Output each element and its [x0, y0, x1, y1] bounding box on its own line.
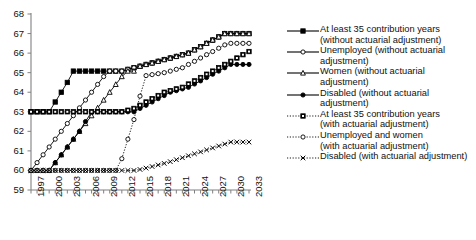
legend-marker-icon [286, 67, 320, 79]
y-tick-label: 63 [2, 106, 24, 117]
series-open-triangle [29, 31, 252, 173]
legend-item: Disabled (without actuarialadjustment) [286, 88, 476, 109]
x-tick-label: 2000 [53, 176, 64, 197]
x-tick-label: 2021 [180, 176, 191, 197]
legend-marker-icon [286, 131, 320, 143]
x-tick-label: 2006 [90, 176, 101, 197]
y-tick-label: 59 [2, 184, 24, 195]
legend-label-line1: Disabled (with actuarial adjustment) [320, 151, 467, 162]
y-tick-label: 64 [2, 86, 24, 97]
series-dotted-square [29, 49, 251, 114]
legend-label: Unemployed and women(with actuarial adju… [320, 130, 429, 151]
chart-legend: At least 35 contribution years(without a… [286, 24, 476, 164]
legend-label-line1: Unemployed and women [320, 130, 429, 141]
legend-label: Women (without actuarialadjustment) [320, 66, 425, 87]
legend-item: Disabled (with actuarial adjustment) [286, 151, 476, 164]
x-tick-label: 1997 [35, 176, 46, 197]
y-tick-label: 65 [2, 67, 24, 78]
x-tick-label: 2015 [144, 176, 155, 197]
x-tick-label: 2033 [253, 176, 264, 197]
legend-label-line1: At least 35 contribution years [320, 109, 440, 120]
legend-label: At least 35 contribution years(without a… [320, 24, 441, 45]
x-tick-label: 2003 [71, 176, 82, 197]
legend-item: Unemployed (without actuarialadjustment) [286, 45, 476, 66]
legend-label-line2: adjustment) [320, 77, 425, 88]
legend-label: Unemployed (without actuarialadjustment) [320, 45, 445, 66]
legend-item: At least 35 contribution years(without a… [286, 24, 476, 45]
legend-label-line1: Unemployed (without actuarial [320, 45, 445, 56]
legend-marker-icon [286, 152, 320, 164]
legend-label-line2: adjustment) [320, 98, 429, 109]
y-tick-label: 62 [2, 125, 24, 136]
y-tick-label: 66 [2, 47, 24, 58]
legend-label: At least 35 contribution years(with actu… [320, 109, 440, 130]
legend-label-line2: (with actuarial adjustment) [320, 141, 429, 152]
x-tick-label: 2012 [126, 176, 137, 197]
legend-marker-icon [286, 25, 320, 37]
legend-label-line2: (with actuarial adjustment) [320, 119, 440, 130]
legend-item: At least 35 contribution years(with actu… [286, 109, 476, 130]
legend-label: Disabled (with actuarial adjustment) [320, 151, 467, 162]
legend-marker-icon [286, 89, 320, 101]
legend-marker-icon [286, 110, 320, 122]
legend-label-line1: At least 35 contribution years [320, 24, 441, 35]
y-tick-label: 67 [2, 28, 24, 39]
series-filled-circle [29, 62, 251, 172]
x-tick-label: 2030 [235, 176, 246, 197]
x-tick-label: 2024 [199, 176, 210, 197]
y-tick-label: 61 [2, 145, 24, 156]
legend-item: Women (without actuarialadjustment) [286, 66, 476, 87]
legend-label-line1: Women (without actuarial [320, 66, 425, 77]
legend-label-line2: adjustment) [320, 56, 445, 67]
y-tick-label: 60 [2, 164, 24, 175]
legend-label-line2: (without actuarial adjustment) [320, 35, 441, 46]
legend-item: Unemployed and women(with actuarial adju… [286, 130, 476, 151]
series-open-circle [29, 31, 251, 172]
x-tick-label: 2027 [217, 176, 228, 197]
y-tick-label: 68 [2, 8, 24, 19]
chart-container: 68676665646362616059 1997200020032006200… [0, 0, 476, 240]
legend-marker-icon [286, 46, 320, 58]
x-tick-label: 2018 [162, 176, 173, 197]
legend-label: Disabled (without actuarialadjustment) [320, 88, 429, 109]
legend-label-line1: Disabled (without actuarial [320, 88, 429, 99]
x-tick-label: 2009 [108, 176, 119, 197]
